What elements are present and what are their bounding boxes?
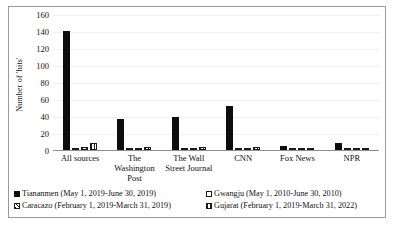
y-tick-label: 100	[36, 62, 49, 71]
y-tick-label: 60	[41, 96, 50, 105]
legend-swatch-icon	[14, 191, 20, 197]
legend-item[interactable]: Caracazo (February 1, 2019-March 31, 201…	[14, 202, 192, 210]
y-tick-label: 160	[36, 11, 49, 20]
y-tick-label: 40	[41, 113, 50, 122]
axes	[53, 15, 379, 151]
bar	[126, 148, 133, 150]
legend-swatch-icon	[206, 203, 212, 209]
bar	[244, 148, 251, 150]
bar	[362, 148, 369, 150]
y-tick-label: 140	[36, 28, 49, 37]
bar	[280, 146, 287, 150]
bar	[172, 117, 179, 150]
bar	[135, 148, 142, 150]
x-axis-category-label: The Washington Post	[107, 153, 161, 183]
legend-label: Tiananmen (May 1, 2019-June 30, 2019)	[22, 190, 156, 198]
legend-item[interactable]: Tiananmen (May 1, 2019-June 30, 2019)	[14, 190, 192, 198]
x-axis-category-label: All sources	[53, 153, 107, 183]
x-axis-line	[53, 150, 379, 151]
x-axis-category-label: CNN	[216, 153, 270, 183]
x-axis-category-label: NPR	[325, 153, 379, 183]
bar	[307, 148, 314, 150]
bar-group	[107, 15, 161, 150]
chart-figure: Number of 'hits' 160140120100806040200 A…	[0, 0, 394, 234]
bar	[353, 148, 360, 150]
y-tick-label: 80	[41, 79, 50, 88]
y-tick-label: 0	[45, 147, 49, 156]
bar	[63, 31, 70, 150]
bar	[298, 148, 305, 150]
bar-group	[270, 15, 324, 150]
bar-group	[53, 15, 107, 150]
bar	[81, 147, 88, 150]
y-axis-ticks: 160140120100806040200	[25, 15, 49, 151]
y-tick-label: 120	[36, 45, 49, 54]
bar	[190, 148, 197, 150]
bar	[72, 148, 79, 150]
bar-group	[216, 15, 270, 150]
bar	[335, 143, 342, 150]
bar-group	[162, 15, 216, 150]
chart-legend: Tiananmen (May 1, 2019-June 30, 2019)Gwa…	[14, 188, 382, 212]
bar-groups	[53, 15, 379, 150]
x-axis-category-label: Fox News	[270, 153, 324, 183]
y-axis-label: Number of 'hits'	[12, 29, 26, 139]
bar	[289, 148, 296, 150]
legend-label: Gujarat (February 1, 2019-March 31, 2022…	[214, 202, 357, 210]
bar	[344, 148, 351, 150]
bar	[226, 106, 233, 150]
legend-label: Caracazo (February 1, 2019-March 31, 201…	[22, 202, 171, 210]
y-tick-label: 20	[41, 130, 50, 139]
bar-group	[325, 15, 379, 150]
x-axis-category-labels: All sourcesThe Washington PostThe Wall S…	[53, 153, 379, 183]
bar	[144, 147, 151, 150]
bar	[117, 119, 124, 150]
bar	[181, 148, 188, 150]
bar	[235, 148, 242, 150]
plot-area: Number of 'hits' 160140120100806040200 A…	[9, 7, 385, 185]
legend-swatch-icon	[14, 203, 20, 209]
legend-item[interactable]: Gwangju (May 1, 2010-June 30, 2010)	[192, 190, 382, 198]
x-axis-category-label: The Wall Street Journal	[162, 153, 216, 183]
legend-item[interactable]: Gujarat (February 1, 2019-March 31, 2022…	[192, 202, 382, 210]
legend-label: Gwangju (May 1, 2010-June 30, 2010)	[214, 190, 342, 198]
bar	[253, 147, 260, 150]
bar	[199, 147, 206, 150]
y-axis-label-text: Number of 'hits'	[15, 57, 24, 112]
bar	[90, 143, 97, 150]
legend-swatch-icon	[206, 191, 212, 197]
